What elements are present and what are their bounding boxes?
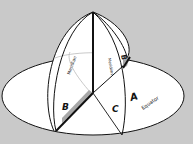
diagram-svg: Meridian Meridian Equator A B C B xyxy=(0,0,193,144)
hemisphere-diagram: Meridian Meridian Equator A B C B xyxy=(0,0,193,144)
label-c: C xyxy=(112,104,119,114)
label-b: B xyxy=(62,102,69,112)
